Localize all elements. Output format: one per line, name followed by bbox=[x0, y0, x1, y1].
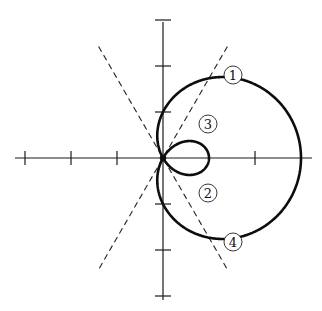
polar-limacon-diagram: 1324 bbox=[0, 0, 322, 311]
label-number: 2 bbox=[204, 186, 212, 201]
label-number: 1 bbox=[229, 68, 237, 83]
pole-point bbox=[160, 155, 166, 161]
region-label-2: 2 bbox=[199, 184, 217, 202]
region-label-4: 4 bbox=[224, 233, 242, 251]
region-label-3: 3 bbox=[199, 115, 217, 133]
label-number: 3 bbox=[204, 117, 212, 132]
label-number: 4 bbox=[229, 235, 237, 250]
region-label-1: 1 bbox=[224, 66, 242, 84]
